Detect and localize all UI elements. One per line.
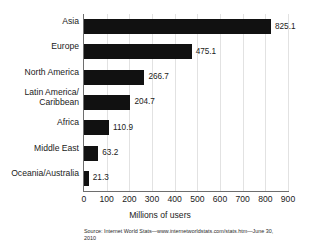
x-tick-label: 100 [100, 194, 114, 204]
x-tick-label: 0 [82, 194, 87, 204]
category-label-asia: Asia [0, 17, 79, 27]
bar-asia [84, 19, 271, 34]
bar-europe [84, 44, 192, 59]
source-note: Source: Internet World Stats—www.interne… [84, 228, 316, 241]
bar-latin-america-caribbean [84, 95, 130, 110]
bar-row: 110.9 [84, 115, 288, 140]
bar-value-label: 21.3 [93, 174, 109, 182]
category-label-oceania-australia: Oceania/Australia [0, 169, 79, 179]
x-tick-label: 700 [236, 194, 250, 204]
x-tick-label: 300 [145, 194, 159, 204]
x-tick-label: 200 [122, 194, 136, 204]
x-tick-label: 500 [190, 194, 204, 204]
bar-row: 266.7 [84, 65, 288, 90]
bar-middle-east [84, 146, 98, 161]
bar-row: 825.1 [84, 14, 288, 39]
x-axis-title: Millions of users [0, 210, 320, 220]
x-tick-label: 600 [213, 194, 227, 204]
y-axis-line [83, 14, 84, 192]
bar-africa [84, 120, 109, 135]
bar-value-label: 825.1 [275, 23, 296, 31]
x-tick-label: 900 [281, 194, 295, 204]
bar-row: 204.7 [84, 90, 288, 115]
bar-row: 63.2 [84, 141, 288, 166]
category-label-latin-america-caribbean: Latin America/ Caribbean [0, 88, 79, 107]
bar-value-label: 110.9 [113, 124, 133, 132]
bar-chart-figure: 825.1 475.1 266.7 204.7 110.9 63.2 21.3 [0, 0, 320, 248]
bar-oceania-australia [84, 171, 89, 186]
bar-value-label: 204.7 [134, 98, 155, 106]
x-tick-label: 800 [258, 194, 272, 204]
bar-value-label: 266.7 [148, 73, 169, 81]
bar-row: 475.1 [84, 39, 288, 64]
gridline [288, 14, 289, 191]
bar-value-label: 63.2 [102, 149, 118, 157]
category-label-north-america: North America [0, 68, 79, 78]
category-label-africa: Africa [0, 118, 79, 128]
bar-north-america [84, 70, 144, 85]
source-note-line2: 2010 [84, 235, 316, 242]
plot-area: 825.1 475.1 266.7 204.7 110.9 63.2 21.3 [84, 14, 288, 191]
category-label-europe: Europe [0, 42, 79, 52]
category-label-middle-east: Middle East [0, 144, 79, 154]
bar-row: 21.3 [84, 166, 288, 191]
source-note-line1: Source: Internet World Stats—www.interne… [84, 228, 316, 235]
x-tick-label: 400 [168, 194, 182, 204]
x-axis-line [84, 191, 289, 192]
bar-value-label: 475.1 [196, 48, 217, 56]
